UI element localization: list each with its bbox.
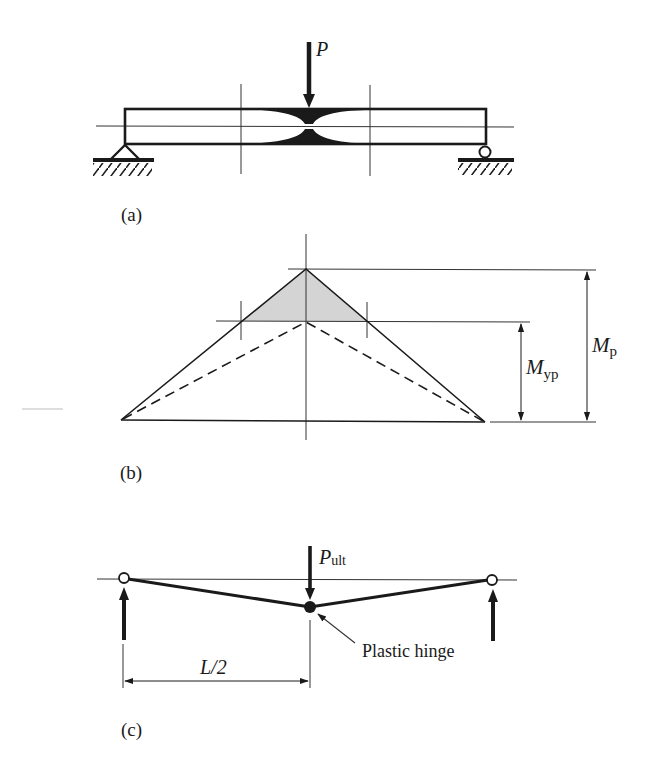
myp-label: Myp <box>525 355 559 382</box>
part-a-beam-diagram: P (a) <box>93 38 514 226</box>
plastic-moment-excess-area <box>241 269 369 322</box>
hinge-leader-arrow <box>318 614 355 643</box>
plastic-zone-top <box>243 109 370 124</box>
mp-label: Mp <box>591 333 617 359</box>
caption-c: (c) <box>121 719 142 741</box>
moment-baseline <box>121 420 485 422</box>
plastic-hinge-label: Plastic hinge <box>362 641 455 661</box>
right-reaction-arrow-icon <box>488 589 498 602</box>
pin-support-icon <box>93 145 154 176</box>
span-label: L/2 <box>199 656 227 678</box>
caption-a: (a) <box>121 204 142 226</box>
mp-reference-line <box>288 269 596 270</box>
ultimate-load-label: Pult <box>318 546 346 568</box>
yield-moment-line <box>123 322 483 421</box>
left-pin-icon <box>119 573 129 583</box>
plastic-zone-bottom <box>243 129 370 144</box>
caption-b: (b) <box>120 462 142 484</box>
myp-reference-line <box>216 321 530 322</box>
load-label-p: P <box>315 38 328 60</box>
ultimate-load-arrow-icon <box>305 588 315 600</box>
left-reaction-arrow-icon <box>119 587 129 600</box>
part-b-moment-diagram: Myp Mp (b) <box>22 234 617 484</box>
load-arrow-icon <box>303 94 315 108</box>
part-c-collapse-mechanism: Pult Plastic hinge L/2 (c) <box>97 546 517 741</box>
undeformed-axis <box>97 579 517 580</box>
roller-support-icon <box>458 147 514 176</box>
right-pin-icon <box>487 575 497 585</box>
beam-centerline <box>96 126 514 127</box>
plastic-hinge-diagram: P (a) <box>0 0 657 773</box>
plastic-hinge-icon <box>304 601 316 613</box>
